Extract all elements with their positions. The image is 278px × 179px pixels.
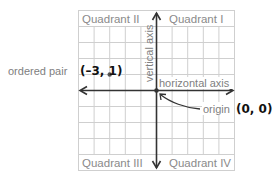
quadrant-3-label: Quadrant III xyxy=(82,157,143,169)
quadrant-1-label: Quadrant I xyxy=(169,13,223,25)
quadrant-4-label: Quadrant IV xyxy=(169,157,231,169)
ordered-pair-value: (–3, 1) xyxy=(80,64,122,78)
origin-value: (0, 0) xyxy=(236,102,272,116)
horizontal-axis-label: horizontal axis xyxy=(159,77,230,89)
origin-label: origin xyxy=(203,103,230,115)
vertical-axis-label: vertical axis xyxy=(143,24,155,82)
ordered-pair-label: ordered pair xyxy=(8,65,68,77)
quadrant-2-label: Quadrant II xyxy=(82,13,140,25)
coordinate-plane: Quadrant II Quadrant I Quadrant III Quad… xyxy=(0,0,278,179)
